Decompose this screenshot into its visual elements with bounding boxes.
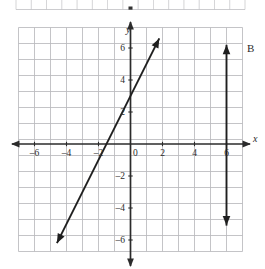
x-tick-label-4: 4 [192,148,197,158]
y-tick-label-4: 4 [120,75,125,85]
figure-label-b: B [247,42,254,54]
x-tick-label-neg6: –6 [29,148,40,158]
y-tick-label-neg4: –4 [115,203,126,213]
x-tick-label-0: 0 [133,148,138,158]
canvas-background [0,0,265,269]
y-tick-label-neg6: –6 [115,235,126,245]
graph-figure: –6–4–20246642–2–4–6 B x y [0,0,265,269]
y-tick-label-2: 2 [120,107,125,117]
y-tick-label-neg2: –2 [115,171,126,181]
y-tick-label-6: 6 [120,43,125,53]
x-tick-label-neg2: –2 [93,148,104,158]
y-axis-name: y [125,24,131,35]
coordinate-plane-svg: –6–4–20246642–2–4–6 B x y [0,0,265,269]
x-axis-name: x [252,133,258,144]
x-tick-label-neg4: –4 [61,148,72,158]
x-tick-label-2: 2 [160,148,165,158]
x-tick-label-6: 6 [224,148,229,158]
